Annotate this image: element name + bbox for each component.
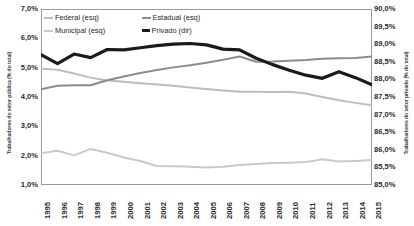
- legend-item[interactable]: Estadual (esq): [142, 14, 238, 21]
- x-axis-tick-label: 2004: [193, 202, 201, 219]
- legend-label: Municipal (esq): [55, 27, 105, 34]
- x-axis-tick-label: 2008: [259, 202, 267, 219]
- x-axis-tick-label: 2007: [243, 202, 251, 219]
- x-axis-tick-label: 2012: [326, 202, 334, 219]
- x-axis-tick-label: 1998: [94, 202, 102, 219]
- x-axis-tick-label: 1995: [44, 202, 52, 219]
- x-axis-tick-label: 2010: [292, 202, 300, 219]
- x-axis-tick-label: 1997: [77, 202, 85, 219]
- chart-legend: Federal (esq)Estadual (esq)Municipal (es…: [44, 11, 237, 37]
- line-chart: Trabalhadores do setor pública (% do tot…: [0, 0, 414, 226]
- x-axis-tick-label: 2015: [375, 202, 383, 219]
- x-axis-tick-label: 2011: [309, 203, 317, 219]
- x-axis-tick-label: 2013: [342, 202, 350, 219]
- legend-item[interactable]: Municipal (esq): [44, 27, 140, 34]
- x-axis-tick-label: 2005: [210, 202, 218, 219]
- legend-label: Privado (dir): [152, 27, 192, 34]
- x-axis-tick-label: 2001: [144, 202, 152, 219]
- legend-swatch-icon: [142, 17, 151, 19]
- x-axis-tick-label: 2014: [359, 202, 367, 219]
- x-axis-tick-label: 1996: [61, 202, 69, 219]
- legend-label: Estadual (esq): [153, 14, 201, 21]
- x-axis-tick-label: 2009: [276, 202, 284, 219]
- legend-swatch-icon: [142, 29, 150, 32]
- x-axis-tick-label: 2002: [160, 202, 168, 219]
- legend-swatch-icon: [44, 30, 53, 32]
- legend-swatch-icon: [44, 17, 53, 19]
- legend-item[interactable]: Federal (esq): [44, 14, 140, 21]
- x-axis-tick-label: 2000: [127, 202, 135, 219]
- legend-item[interactable]: Privado (dir): [142, 27, 238, 34]
- x-axis-tick-label: 1999: [110, 202, 118, 219]
- x-axis-tick-label: 2006: [226, 202, 234, 219]
- x-axis-tick-label: 2003: [177, 202, 185, 219]
- legend-label: Federal (esq): [55, 14, 99, 21]
